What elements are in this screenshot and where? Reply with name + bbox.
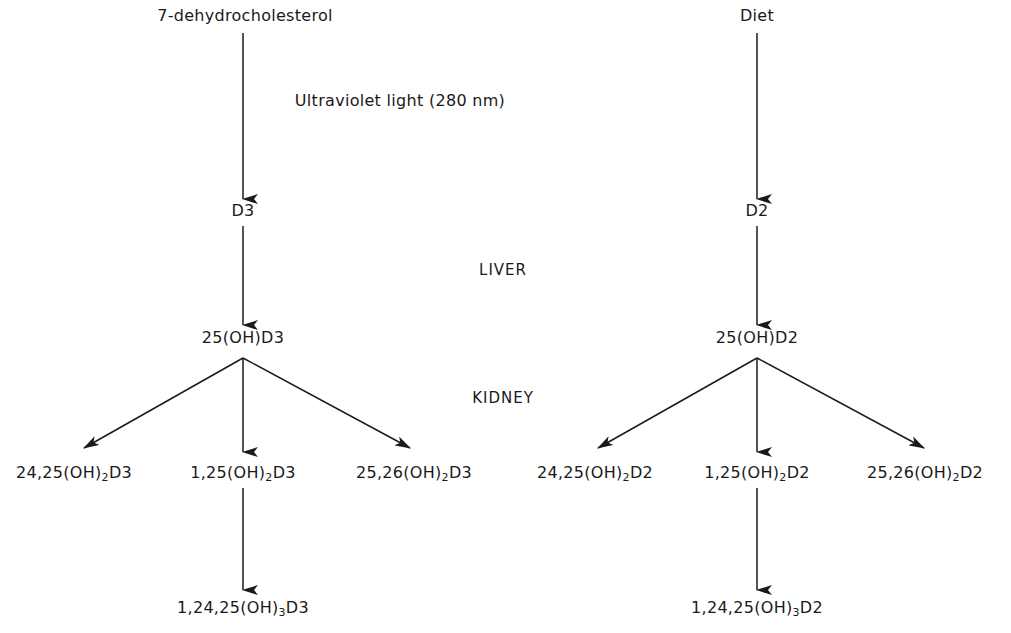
node-diet: Diet	[740, 6, 774, 26]
node-25ohd2: 25(OH)D2	[716, 328, 798, 348]
node-25-26-oh2-d2: 25,26(OH)2D2	[867, 463, 983, 488]
annotation-ultraviolet-light: Ultraviolet light (280 nm)	[295, 91, 505, 111]
node-24-25-oh2-d2: 24,25(OH)2D2	[537, 463, 653, 488]
arrow-25ohd2-to-2526	[757, 358, 924, 448]
node-1-24-25-oh3-d2: 1,24,25(OH)3D2	[691, 598, 823, 623]
node-1-24-25-oh3-d3: 1,24,25(OH)3D3	[177, 598, 309, 623]
node-1-25-oh2-d2: 1,25(OH)2D2	[704, 463, 810, 488]
node-d2: D2	[745, 201, 768, 221]
pathway-arrows	[0, 0, 1011, 633]
annotation-liver: LIVER	[479, 260, 527, 280]
node-7-dehydrocholesterol: 7-dehydrocholesterol	[157, 6, 333, 26]
node-25-26-oh2-d3: 25,26(OH)2D3	[356, 463, 472, 488]
node-25ohd3: 25(OH)D3	[202, 328, 284, 348]
node-1-25-oh2-d3: 1,25(OH)2D3	[190, 463, 296, 488]
annotation-kidney: KIDNEY	[472, 388, 534, 408]
arrow-25ohd2-to-2425	[598, 358, 757, 448]
node-24-25-oh2-d3: 24,25(OH)2D3	[16, 463, 132, 488]
arrow-25ohd3-to-2425	[84, 358, 243, 448]
arrow-25ohd3-to-2526	[243, 358, 410, 448]
node-d3: D3	[231, 201, 254, 221]
